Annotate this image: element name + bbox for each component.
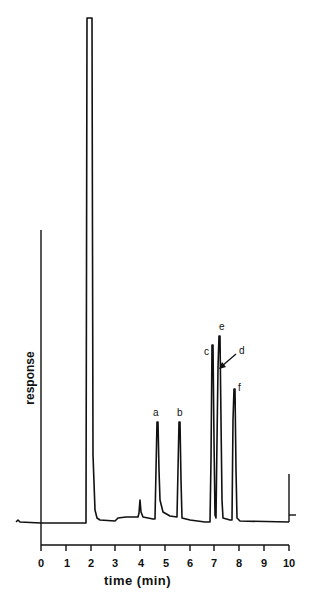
chromatogram-plot [0,0,309,601]
x-axis-title: time (min) [104,573,171,588]
x-tick-label-4: 4 [138,557,144,569]
peak-label-d: d [239,345,245,356]
x-tick-label-3: 3 [112,557,118,569]
x-tick-label-1: 1 [64,557,70,569]
arrow-d [222,354,236,366]
x-tick-label-6: 6 [187,557,193,569]
peak-label-e: e [219,321,225,332]
y-axis-title: response [23,351,37,404]
peak-label-a: a [153,407,159,418]
x-tick-label-2: 2 [88,557,94,569]
x-axis-ticks [41,545,289,551]
x-tick-label-5: 5 [163,557,169,569]
x-tick-label-8: 8 [236,557,242,569]
x-tick-label-0: 0 [38,557,44,569]
x-tick-label-10: 10 [283,557,295,569]
peak-label-c: c [204,346,209,357]
peak-label-b: b [177,407,183,418]
x-tick-label-9: 9 [261,557,267,569]
chromatogram-trace [16,18,289,523]
x-tick-label-7: 7 [211,557,217,569]
peak-label-f: f [238,382,241,393]
